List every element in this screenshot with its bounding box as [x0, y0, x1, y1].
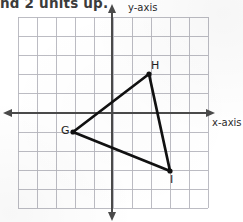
- x-axis-right-arrow: [206, 109, 215, 117]
- worksheet-figure: nd 2 units up.: [0, 0, 243, 222]
- y-axis-top-arrow: [108, 4, 116, 13]
- vertex-label-i: I: [170, 173, 173, 186]
- x-axis-label: x-axis: [212, 117, 242, 128]
- x-axis-left-arrow: [3, 109, 12, 117]
- vertex-label-h: H: [151, 59, 159, 72]
- x-axis: [3, 109, 215, 117]
- triangle-ghi: [70, 71, 172, 173]
- y-axis-bottom-arrow: [108, 212, 116, 221]
- vertex-point-g: [70, 129, 75, 134]
- vertex-point-h: [146, 71, 151, 76]
- triangle-ghi-outline: [73, 74, 170, 171]
- y-axis-label: y-axis: [128, 2, 157, 13]
- coordinate-plane: [0, 0, 243, 222]
- vertex-label-g: G: [61, 124, 70, 137]
